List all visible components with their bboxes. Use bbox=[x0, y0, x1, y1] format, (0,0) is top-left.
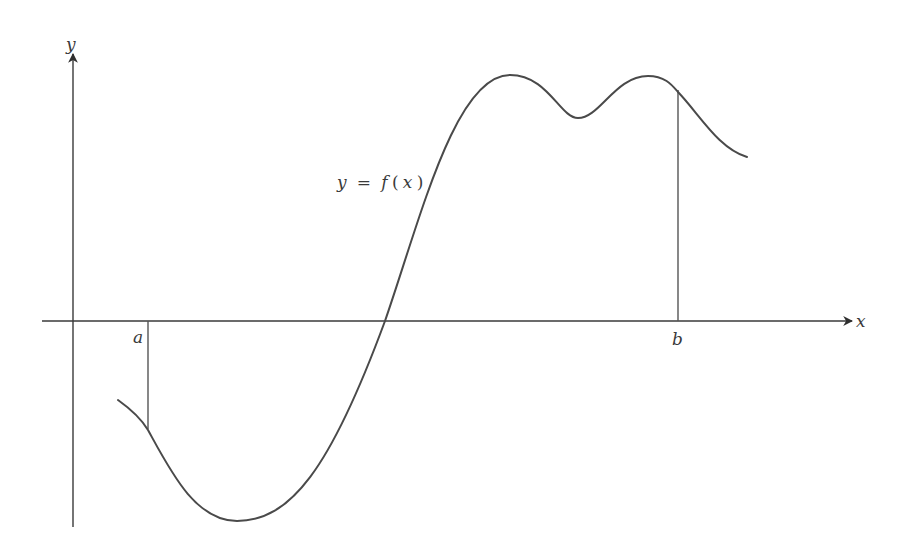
function-curve bbox=[118, 75, 747, 521]
function-label: y = f ( x ) bbox=[336, 172, 423, 192]
a-label: a bbox=[133, 327, 143, 347]
y-axis-label: y bbox=[65, 34, 76, 54]
b-label: b bbox=[672, 329, 683, 349]
x-axis-label: x bbox=[856, 311, 866, 331]
function-graph: y x a b y = f ( x ) bbox=[0, 0, 900, 551]
